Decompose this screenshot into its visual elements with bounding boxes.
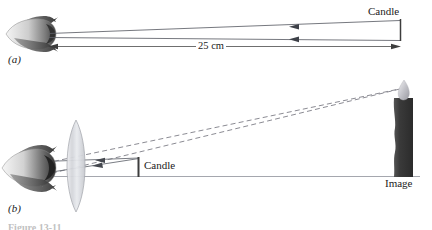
arrowhead-left-icon — [289, 37, 299, 43]
biconvex-lens-icon — [67, 120, 85, 212]
image-flame-icon — [398, 80, 409, 100]
ray-a-upper — [49, 21, 400, 34]
virtual-ray-lower — [36, 88, 404, 177]
panel-a-label: (a) — [8, 53, 21, 65]
image-label: Image — [385, 178, 412, 190]
candle-a-label: Candle — [368, 6, 399, 18]
virtual-ray-upper — [46, 88, 404, 163]
figure-caption-partial: Figure 13-11 — [8, 222, 61, 230]
ray-diagram-svg — [0, 0, 432, 230]
distance-label-25cm: 25 cm — [196, 40, 226, 51]
eye-b-icon — [2, 145, 57, 192]
arrowhead-right-icon — [391, 44, 401, 49]
panel-b-group — [2, 80, 420, 212]
figure-container: Candle 25 cm (a) Candle Image (b) Figure… — [0, 0, 432, 230]
panel-b-label: (b) — [8, 202, 21, 214]
virtual-image-candle-icon — [394, 98, 413, 177]
candle-b-label: Candle — [142, 160, 175, 172]
